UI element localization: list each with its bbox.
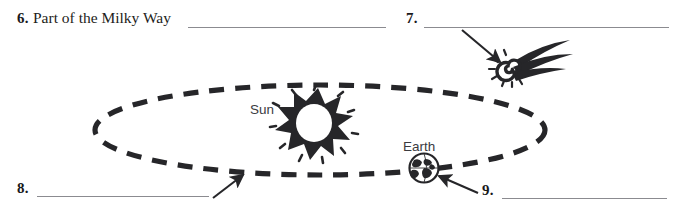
sun-sparkles xyxy=(270,85,358,163)
earth-continents xyxy=(410,159,435,178)
answer-line-6[interactable] xyxy=(188,27,386,28)
comet-head-spiral xyxy=(497,60,520,80)
dashed-orbit-ellipse xyxy=(95,85,545,175)
comet-sparks xyxy=(489,50,522,87)
comet-icon xyxy=(489,40,573,87)
question-number-9: 9. xyxy=(482,182,494,199)
earth-meridians xyxy=(410,154,438,183)
answer-line-7[interactable] xyxy=(424,27,669,28)
earth-globe-icon xyxy=(410,154,439,183)
comet-tail-2 xyxy=(513,54,573,75)
worksheet-page: 6. Part of the Milky Way 7. 8. 9. Sun Ea… xyxy=(0,0,677,215)
question-text-6: Part of the Milky Way xyxy=(33,9,171,27)
comet-tail-3 xyxy=(512,68,566,81)
sun-core xyxy=(296,104,332,142)
comet-tail-1 xyxy=(516,40,570,66)
answer-line-8[interactable] xyxy=(37,196,209,197)
pointer-arrow-9 xyxy=(439,176,478,193)
question-number-8: 8. xyxy=(17,180,29,197)
sun-starburst-icon xyxy=(270,85,358,163)
earth-label: Earth xyxy=(403,139,435,154)
sun-rays xyxy=(275,88,353,160)
pointer-arrow-8 xyxy=(213,175,243,198)
pointer-arrow-7 xyxy=(462,30,500,62)
sun-label: Sun xyxy=(250,102,274,117)
diagram-artwork xyxy=(0,0,677,215)
earth-outline xyxy=(410,154,439,183)
answer-line-9[interactable] xyxy=(502,198,667,199)
question-number-6: 6. xyxy=(17,10,29,27)
question-number-7: 7. xyxy=(406,10,418,27)
